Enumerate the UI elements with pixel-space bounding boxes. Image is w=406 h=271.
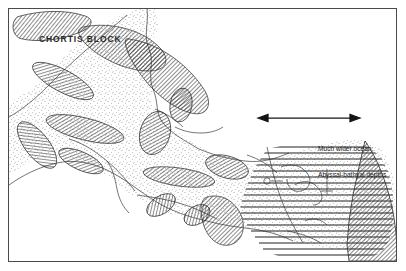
map-frame: CHORTIS BLOCK Much wider ocean; Abyssal-… [8, 8, 397, 262]
figure-root: CHORTIS BLOCK Much wider ocean; Abyssal-… [0, 0, 406, 271]
map-graphic [9, 9, 396, 261]
